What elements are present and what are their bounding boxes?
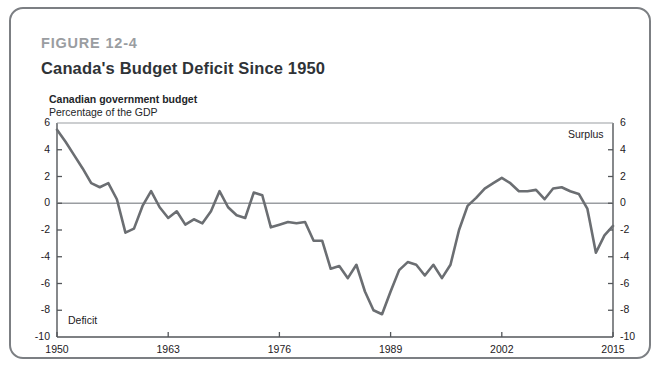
x-axis-label: 1989 <box>368 343 414 355</box>
y-axis-label-right: 6 <box>620 116 646 128</box>
x-axis-label: 2015 <box>590 343 636 355</box>
y-axis-label-left: 0 <box>24 196 50 208</box>
y-axis-label-left: -8 <box>24 303 50 315</box>
y-axis-label-right: -2 <box>620 223 646 235</box>
y-axis-label-left: 4 <box>24 143 50 155</box>
figure-card: FIGURE 12-4 Canada's Budget Deficit Sinc… <box>9 7 651 359</box>
y-axis-label-right: 0 <box>620 196 646 208</box>
y-axis-label-left: 6 <box>24 116 50 128</box>
x-axis-label: 2002 <box>479 343 525 355</box>
y-axis-label-right: 4 <box>620 143 646 155</box>
chart-subnote: Percentage of the GDP <box>49 106 158 118</box>
surplus-annotation: Surplus <box>568 128 604 140</box>
x-axis-label: 1976 <box>256 343 302 355</box>
deficit-annotation: Deficit <box>68 314 97 326</box>
y-axis-label-right: -4 <box>620 250 646 262</box>
y-axis-label-left: -4 <box>24 250 50 262</box>
y-axis-label-right: 2 <box>620 170 646 182</box>
y-axis-label-left: -10 <box>24 330 50 342</box>
y-axis-label-right: -10 <box>620 330 646 342</box>
y-axis-label-right: -8 <box>620 303 646 315</box>
y-axis-label-left: 2 <box>24 170 50 182</box>
chart-subheading: Canadian government budget <box>49 93 197 105</box>
page-title: Canada's Budget Deficit Since 1950 <box>41 59 325 78</box>
x-axis-label: 1950 <box>34 343 80 355</box>
y-axis-label-right: -6 <box>620 277 646 289</box>
figure-label: FIGURE 12-4 <box>41 35 138 51</box>
y-axis-label-left: -6 <box>24 277 50 289</box>
y-axis-label-left: -2 <box>24 223 50 235</box>
x-axis-label: 1963 <box>145 343 191 355</box>
